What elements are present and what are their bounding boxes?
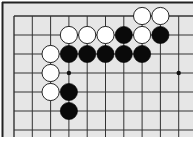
black-stone xyxy=(115,26,132,43)
black-stone xyxy=(60,45,77,62)
black-stone xyxy=(79,45,96,62)
black-stone xyxy=(152,26,169,43)
black-stone xyxy=(60,83,77,100)
black-stone xyxy=(60,102,77,119)
black-stone xyxy=(97,45,114,62)
white-stone xyxy=(152,7,169,24)
black-stone xyxy=(134,45,151,62)
star-point xyxy=(177,71,181,75)
white-stone xyxy=(134,26,151,43)
star-point xyxy=(67,71,71,75)
white-stone xyxy=(79,26,96,43)
white-stone xyxy=(42,83,59,100)
white-stone xyxy=(97,26,114,43)
white-stone xyxy=(42,64,59,81)
white-stone xyxy=(42,45,59,62)
go-board xyxy=(0,0,193,150)
white-stone xyxy=(134,7,151,24)
black-stone xyxy=(115,45,132,62)
white-stone xyxy=(60,26,77,43)
